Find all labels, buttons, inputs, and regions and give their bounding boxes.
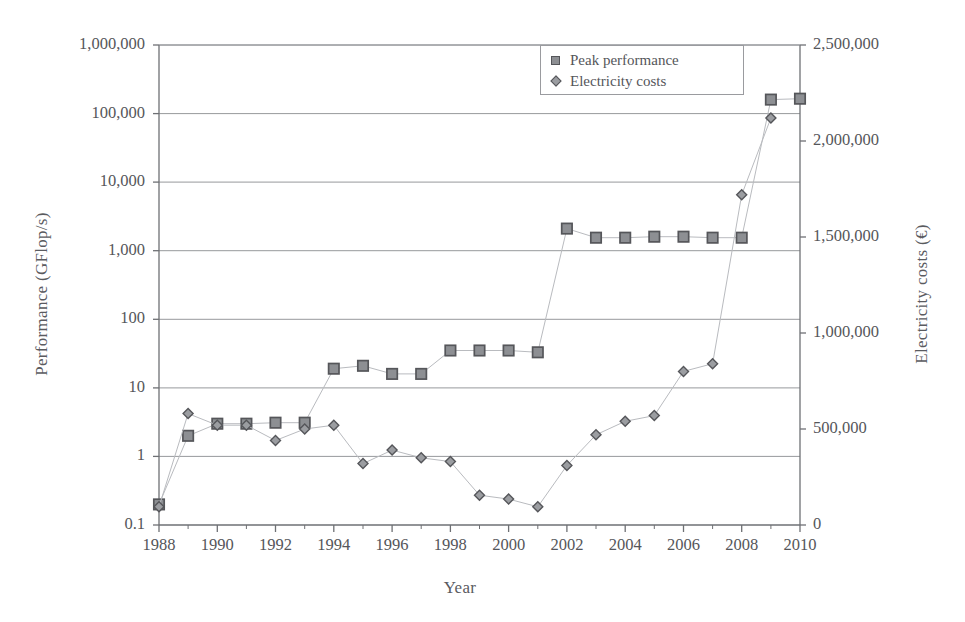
y-axis-right-tick-label: 2,500,000 [813,36,943,53]
data-point-electricity-costs[interactable] [649,411,659,421]
y-axis-right-tick-label: 1,000,000 [813,324,943,341]
data-point-peak-performance[interactable] [183,431,193,441]
data-point-electricity-costs[interactable] [416,453,426,463]
y-axis-left-tick-label: 1 [15,447,145,464]
series-line-peak-performance [159,99,800,505]
y-axis-left-tick-label: 100 [15,310,145,327]
data-point-peak-performance[interactable] [591,233,601,243]
y-axis-right-tick-label: 1,500,000 [813,228,943,245]
data-point-peak-performance[interactable] [503,345,513,355]
data-point-peak-performance[interactable] [707,233,717,243]
chart-figure: Performance (GFlop/s) Electricity costs … [0,0,965,622]
y-axis-right-title: Electricity costs (€) [912,164,932,424]
data-point-peak-performance[interactable] [270,418,280,428]
series-line-electricity-costs [159,118,771,507]
data-point-electricity-costs[interactable] [358,459,368,469]
data-point-peak-performance[interactable] [562,223,572,233]
legend-label-electricity-costs: Electricity costs [570,73,666,90]
x-axis-tick-label: 2010 [765,537,835,554]
y-axis-left-tick-label: 1,000 [15,242,145,259]
y-axis-left-tick-label: 100,000 [15,105,145,122]
data-point-peak-performance[interactable] [620,233,630,243]
data-point-peak-performance[interactable] [533,347,543,357]
y-axis-left-tick-label: 10,000 [15,173,145,190]
data-point-peak-performance[interactable] [329,364,339,374]
x-axis-title: Year [380,578,540,598]
chart-legend: Peak performance Electricity costs [540,45,744,95]
data-point-electricity-costs[interactable] [183,409,193,419]
data-point-peak-performance[interactable] [445,345,455,355]
y-axis-left-tick-label: 10 [15,379,145,396]
legend-label-peak-performance: Peak performance [570,52,679,69]
y-axis-left-tick-label: 1,000,000 [15,36,145,53]
y-axis-right-tick-label: 500,000 [813,420,943,437]
data-point-electricity-costs[interactable] [387,445,397,455]
data-point-peak-performance[interactable] [795,94,805,104]
data-point-peak-performance[interactable] [678,232,688,242]
data-point-electricity-costs[interactable] [329,420,339,430]
data-point-electricity-costs[interactable] [679,366,689,376]
data-point-peak-performance[interactable] [474,345,484,355]
data-point-electricity-costs[interactable] [708,359,718,369]
y-axis-left-tick-label: 0.1 [15,516,145,533]
legend-item-electricity-costs: Electricity costs [549,71,737,92]
y-axis-right-tick-label: 0 [813,516,943,533]
data-point-peak-performance[interactable] [766,94,776,104]
data-point-peak-performance[interactable] [416,369,426,379]
diamond-marker-icon [549,75,563,89]
legend-item-peak-performance: Peak performance [549,50,737,71]
data-point-electricity-costs[interactable] [504,494,514,504]
data-point-peak-performance[interactable] [737,233,747,243]
data-point-electricity-costs[interactable] [533,502,543,512]
y-axis-right-tick-label: 2,000,000 [813,132,943,149]
data-point-electricity-costs[interactable] [620,416,630,426]
data-point-electricity-costs[interactable] [737,190,747,200]
data-point-peak-performance[interactable] [387,369,397,379]
data-point-electricity-costs[interactable] [271,436,281,446]
data-point-peak-performance[interactable] [358,361,368,371]
data-point-peak-performance[interactable] [649,232,659,242]
square-marker-icon [549,54,563,68]
